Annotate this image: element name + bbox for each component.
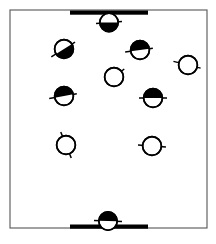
- diagram-canvas: [0, 0, 216, 244]
- particle-diagram-figure: [0, 0, 216, 244]
- particle-center: [105, 68, 125, 87]
- confinement-box: [10, 10, 207, 228]
